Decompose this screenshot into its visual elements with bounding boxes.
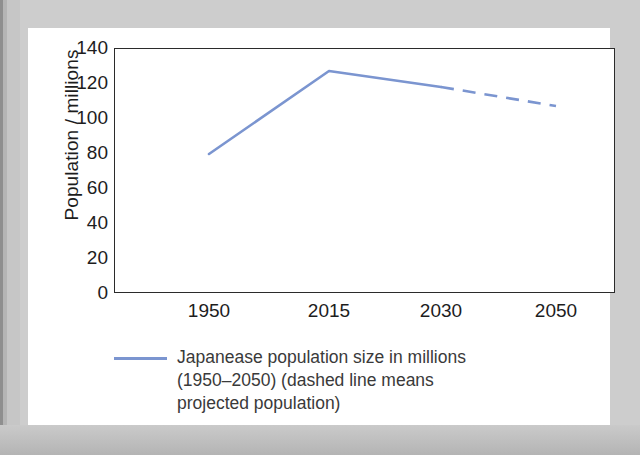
y-tick-label-120: 120 — [76, 72, 108, 94]
page-background-bottom-band — [0, 425, 640, 455]
y-tick-label-0: 0 — [97, 282, 108, 304]
population-dashed-projection-line — [441, 87, 556, 106]
chart-legend: Japanease population size in millions (1… — [114, 346, 584, 415]
legend-label: Japanease population size in millions (1… — [177, 346, 466, 415]
x-tick-label-1950: 1950 — [188, 300, 230, 322]
legend-label-line-3: projected population) — [177, 392, 466, 415]
y-tick-label-60: 60 — [87, 177, 108, 199]
x-tick-label-2050: 2050 — [535, 300, 577, 322]
legend-line-swatch-icon — [114, 357, 167, 360]
plot-area — [114, 48, 615, 293]
population-solid-line — [209, 71, 441, 154]
figure-screenshot: Population / millions 0 20 40 60 80 100 … — [0, 0, 640, 455]
figure-card: Population / millions 0 20 40 60 80 100 … — [28, 28, 610, 425]
y-tick-label-140: 140 — [76, 37, 108, 59]
y-axis-tick-labels: 0 20 40 60 80 100 120 140 — [46, 48, 108, 293]
legend-label-line-1: Japanease population size in millions — [177, 346, 466, 369]
x-tick-label-2030: 2030 — [420, 300, 462, 322]
y-tick-label-40: 40 — [87, 212, 108, 234]
population-line-chart — [115, 49, 613, 291]
x-tick-label-2015: 2015 — [308, 300, 350, 322]
y-tick-label-100: 100 — [76, 107, 108, 129]
y-tick-label-20: 20 — [87, 247, 108, 269]
y-tick-label-80: 80 — [87, 142, 108, 164]
legend-label-line-2: (1950–2050) (dashed line means — [177, 369, 466, 392]
x-axis-tick-labels: 1950 2015 2030 2050 — [114, 300, 615, 326]
